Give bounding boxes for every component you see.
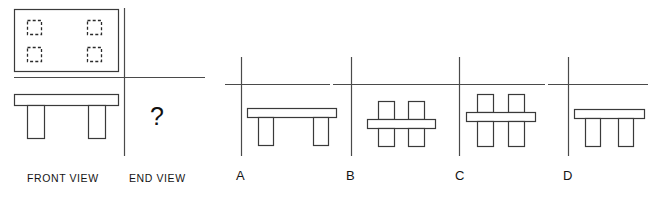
option-b-stub-leg-right: [409, 102, 425, 120]
option-label-b[interactable]: B: [346, 168, 355, 183]
option-d-leg-left: [586, 119, 601, 147]
option-b-leg-left: [379, 129, 395, 147]
option-c-group: [440, 57, 545, 156]
front-view-leg-right: [89, 106, 106, 139]
option-d-leg-right: [619, 119, 634, 147]
front-view-leg-left: [28, 106, 45, 139]
option-label-c[interactable]: C: [455, 168, 464, 183]
front-view-tabletop: [15, 95, 119, 106]
option-c-slab: [467, 113, 536, 122]
option-label-a[interactable]: A: [236, 168, 245, 183]
option-c-leg-right: [509, 122, 525, 147]
option-label-d[interactable]: D: [563, 168, 572, 183]
option-a-leg-left: [259, 118, 274, 146]
top-view-group: [15, 10, 119, 72]
option-a-group: [225, 57, 337, 156]
option-d-tabletop: [575, 110, 645, 119]
option-b-stub-leg-left: [379, 102, 395, 120]
top-view-outline: [15, 10, 119, 72]
projection-puzzle-canvas: ? FRONT VIEW END VIEW A B C D: [0, 0, 650, 197]
option-a-tabletop: [248, 109, 337, 118]
option-b-leg-right: [409, 129, 425, 147]
technical-drawing: [0, 0, 650, 197]
option-c-stub-leg-left: [478, 95, 494, 113]
option-b-slab: [368, 120, 436, 129]
option-b-group: [333, 57, 440, 156]
option-c-leg-left: [478, 122, 494, 147]
option-d-group: [548, 57, 648, 156]
option-a-leg-right: [314, 118, 329, 146]
caption-end-view: END VIEW: [129, 172, 186, 184]
option-c-stub-leg-right: [509, 95, 525, 113]
missing-view-question-mark: ?: [150, 104, 164, 129]
caption-front-view: FRONT VIEW: [27, 172, 99, 184]
front-view-group: [15, 95, 119, 139]
